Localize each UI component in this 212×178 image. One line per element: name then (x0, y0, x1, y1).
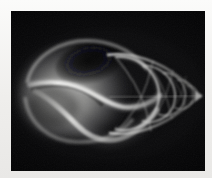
film-grain (11, 11, 205, 171)
radiograph-plate (11, 11, 205, 171)
shell-radiograph-image (11, 11, 205, 171)
screenshot-root: X-ray radiograph of a spiral seashell on… (0, 0, 212, 178)
